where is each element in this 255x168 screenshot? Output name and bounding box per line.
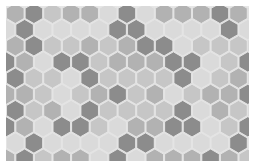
hex-tile — [220, 84, 238, 104]
hex-tile — [7, 133, 25, 153]
hex-tile — [174, 100, 192, 120]
hex-tile — [193, 68, 211, 88]
hex-tile — [146, 19, 164, 39]
hex-tile — [137, 133, 155, 153]
hex-tile — [118, 100, 136, 120]
hex-tile — [81, 100, 99, 120]
hex-tile — [174, 68, 192, 88]
hex-tile — [202, 117, 220, 137]
hex-tile — [44, 68, 62, 88]
hex-tile — [183, 84, 201, 104]
hex-tile — [100, 100, 118, 120]
hex-tile — [44, 100, 62, 120]
hex-tile — [118, 68, 136, 88]
hex-tile — [211, 133, 229, 153]
hex-tile — [183, 52, 201, 72]
hex-tile — [220, 19, 238, 39]
hex-tile — [25, 133, 43, 153]
hex-tile — [109, 84, 127, 104]
hex-tile — [90, 19, 108, 39]
hex-tile — [155, 36, 173, 56]
hex-tile — [118, 133, 136, 153]
hex-tile — [25, 100, 43, 120]
hex-tile — [193, 36, 211, 56]
hex-tile — [230, 68, 248, 88]
hex-tile — [34, 84, 52, 104]
hex-tile — [137, 100, 155, 120]
hex-tile — [118, 36, 136, 56]
hex-tile — [220, 52, 238, 72]
hex-tile — [34, 52, 52, 72]
hex-tile — [193, 100, 211, 120]
hex-tile — [155, 100, 173, 120]
hex-tile — [174, 36, 192, 56]
hex-tile — [137, 36, 155, 56]
hex-tile — [72, 19, 90, 39]
hex-tile — [146, 84, 164, 104]
hex-tile — [211, 100, 229, 120]
hex-tile — [230, 36, 248, 56]
hex-tile — [109, 117, 127, 137]
hex-tile — [7, 36, 25, 56]
hex-tile — [211, 36, 229, 56]
hex-tile — [100, 133, 118, 153]
hex-tile — [165, 117, 183, 137]
hex-tile — [90, 84, 108, 104]
hex-tile — [137, 68, 155, 88]
hex-tile — [127, 117, 145, 137]
hex-tile — [72, 84, 90, 104]
hex-tile — [34, 117, 52, 137]
hex-tile — [25, 36, 43, 56]
hex-tile — [127, 84, 145, 104]
hex-tile — [16, 19, 34, 39]
hex-tile — [62, 100, 80, 120]
hex-tile — [183, 19, 201, 39]
hex-grid-canvas — [6, 6, 249, 161]
hex-tile — [34, 19, 52, 39]
hex-tile — [7, 100, 25, 120]
hex-tile — [193, 133, 211, 153]
hex-tile — [146, 52, 164, 72]
hex-tile — [230, 133, 248, 153]
hex-tile — [100, 36, 118, 56]
hex-tile — [62, 133, 80, 153]
hex-tile — [220, 117, 238, 137]
hex-tile — [81, 68, 99, 88]
hex-tile — [53, 52, 71, 72]
hex-tile — [202, 52, 220, 72]
hex-tile — [165, 84, 183, 104]
hex-tile — [202, 84, 220, 104]
hex-tile — [81, 133, 99, 153]
hex-tile — [165, 52, 183, 72]
hex-tile — [44, 36, 62, 56]
hex-tile — [90, 52, 108, 72]
hex-tile — [72, 52, 90, 72]
hex-tile — [109, 19, 127, 39]
hex-tile — [202, 19, 220, 39]
hex-tile — [53, 117, 71, 137]
hex-tile — [155, 133, 173, 153]
hex-tile — [7, 68, 25, 88]
hex-tile — [127, 52, 145, 72]
hex-tile — [127, 19, 145, 39]
hex-tile — [81, 36, 99, 56]
hex-tile — [53, 84, 71, 104]
hex-tile — [72, 117, 90, 137]
hex-tile-board — [6, 6, 249, 161]
hex-tile — [25, 68, 43, 88]
hex-tile — [53, 19, 71, 39]
hex-tile — [146, 117, 164, 137]
hex-tile — [155, 68, 173, 88]
hex-tile — [211, 68, 229, 88]
hex-tile — [16, 84, 34, 104]
hex-tile — [183, 117, 201, 137]
hex-tile — [109, 52, 127, 72]
hex-tile — [100, 68, 118, 88]
hex-tile — [62, 68, 80, 88]
hex-tile — [90, 117, 108, 137]
hex-tile — [44, 133, 62, 153]
hex-tile — [16, 117, 34, 137]
hex-tile — [16, 52, 34, 72]
hex-tile — [230, 100, 248, 120]
hex-tile — [62, 36, 80, 56]
